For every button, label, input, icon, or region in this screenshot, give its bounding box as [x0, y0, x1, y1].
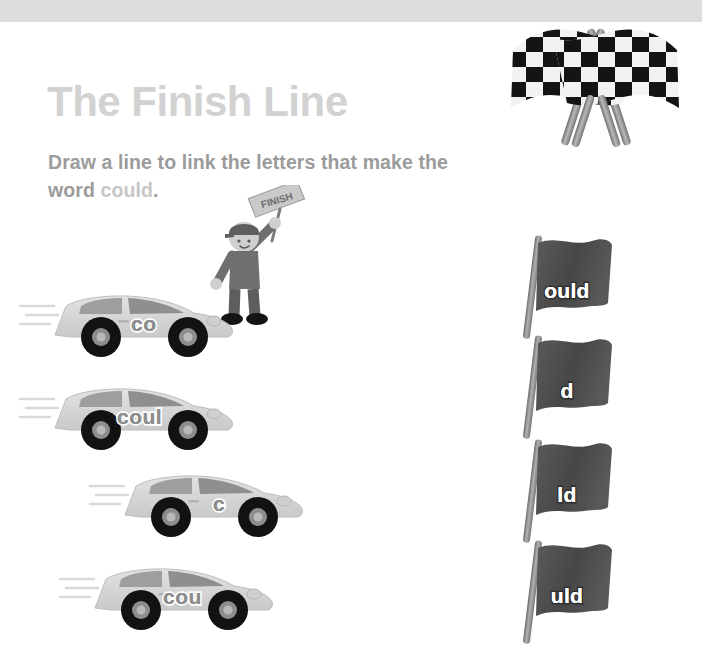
race-car-icon[interactable]: co co	[18, 275, 248, 367]
crossed-checkered-flags-icon	[495, 8, 695, 148]
waving-flag-icon[interactable]: uld uld	[512, 538, 622, 646]
page-title: The Finish Line	[47, 78, 348, 126]
speed-lines-icon	[90, 486, 128, 504]
instruction-suffix: .	[153, 179, 159, 201]
race-car-icon[interactable]: c c	[88, 455, 318, 547]
speed-lines-icon	[20, 399, 58, 417]
target-word: could	[101, 179, 154, 201]
speed-lines-icon	[20, 306, 58, 324]
worksheet-page: The Finish Line Draw a line to link the …	[0, 0, 702, 653]
waving-flag-icon[interactable]: ould ould	[512, 233, 622, 341]
waving-flag-icon[interactable]: d d	[512, 333, 622, 441]
race-car-icon[interactable]: coul coul	[18, 368, 248, 460]
race-car-icon[interactable]: cou cou	[58, 548, 288, 640]
waving-flag-icon[interactable]: ld ld	[512, 437, 622, 545]
speed-lines-icon	[60, 579, 98, 597]
